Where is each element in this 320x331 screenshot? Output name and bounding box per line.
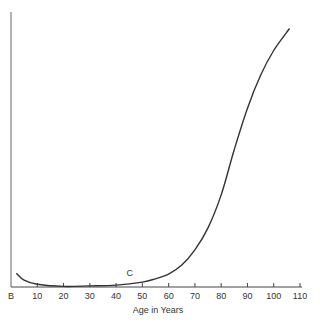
x-tick-label: 30 <box>85 291 95 301</box>
x-tick-label: 10 <box>32 291 42 301</box>
x-tick-label: 50 <box>137 291 147 301</box>
x-tick-label: 70 <box>190 291 200 301</box>
x-tick-label: 90 <box>242 291 252 301</box>
data-line <box>16 29 289 287</box>
x-tick-label: 80 <box>216 291 226 301</box>
x-tick-label: B <box>8 291 14 301</box>
x-tick-label: 110 <box>293 291 307 301</box>
x-axis-title: Age in Years <box>133 305 184 315</box>
x-tick-label: 60 <box>164 291 174 301</box>
chart: B102030405060708090100110 C Age in Years <box>0 0 320 331</box>
x-tick-label: 40 <box>111 291 121 301</box>
curve-label-c: C <box>127 268 134 278</box>
x-tick-label: 100 <box>266 291 281 301</box>
x-tick-label: 20 <box>59 291 69 301</box>
